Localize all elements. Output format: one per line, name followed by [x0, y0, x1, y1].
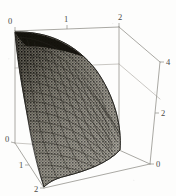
box-edge-floor-right — [119, 150, 150, 164]
box-edge-top-right — [119, 27, 160, 62]
y-tick-label-0: 0 — [5, 134, 9, 144]
plot-canvas: 0 1 2 0 1 2 4 2 0 — [0, 0, 176, 196]
surface-mesh — [10, 26, 130, 194]
box-edge-mid-right — [119, 64, 160, 99]
z-tick-label-2: 2 — [161, 108, 165, 118]
z-tick-label-4: 4 — [166, 57, 171, 67]
tick-y-0 — [11, 142, 15, 143]
y-tick-label-1: 1 — [19, 160, 23, 170]
surface-plot-figure: 0 1 2 0 1 2 4 2 0 — [0, 0, 176, 196]
x-tick-label-1: 1 — [64, 14, 68, 24]
x-tick-label-0: 0 — [8, 16, 12, 26]
x-tick-label-2: 2 — [118, 12, 122, 22]
y-tick-label-2: 2 — [34, 184, 38, 194]
z-tick-label-0: 0 — [156, 159, 160, 169]
